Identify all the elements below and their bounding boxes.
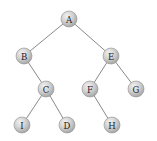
- node-label: I: [20, 121, 23, 131]
- edges-layer: [22, 19, 136, 125]
- edge-a-e: [69, 19, 111, 56]
- node-label: D: [64, 121, 71, 131]
- tree-node-a: A: [61, 11, 77, 27]
- tree-node-e: E: [103, 48, 119, 64]
- tree-node-f: F: [82, 81, 98, 97]
- tree-node-h: H: [104, 117, 120, 133]
- node-label: B: [21, 52, 27, 62]
- node-label: E: [108, 52, 114, 62]
- tree-node-c: C: [38, 81, 54, 97]
- tree-node-i: I: [14, 117, 30, 133]
- node-label: C: [43, 85, 50, 95]
- tree-node-b: B: [16, 48, 32, 64]
- binary-tree-diagram: ABECFGIDH: [0, 0, 157, 141]
- edge-a-b: [24, 19, 69, 56]
- tree-node-g: G: [128, 81, 144, 97]
- node-label: H: [108, 121, 115, 131]
- node-label: G: [133, 85, 140, 95]
- nodes-layer: ABECFGIDH: [14, 11, 144, 133]
- tree-node-d: D: [59, 117, 75, 133]
- node-label: A: [65, 15, 73, 25]
- node-label: F: [87, 85, 93, 95]
